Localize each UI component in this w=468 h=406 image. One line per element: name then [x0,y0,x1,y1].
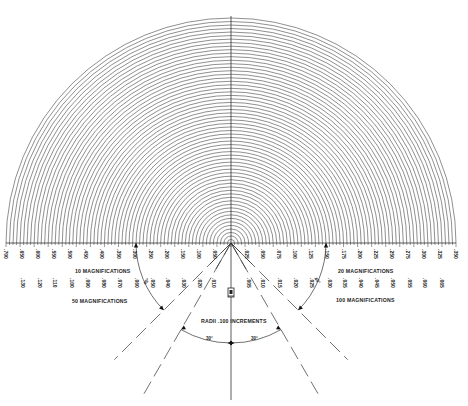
scale-label: .110 [52,278,58,287]
label-angle-right-30: 30° [251,336,258,341]
scale-label: .010 [211,278,217,288]
center-marker-icon [228,288,234,297]
scale-label: .005 [246,278,252,288]
scale-label: .350 [116,249,122,259]
scale-label: .200 [357,249,363,259]
scale-label: .070 [117,278,123,288]
scale-label: .055 [407,278,413,288]
scale-label: .030 [181,278,187,288]
label-50-magnifications: 50 MAGNIFICATIONS [72,298,127,304]
scale-label: .300 [421,249,427,259]
scale-label: .275 [405,249,411,259]
scale-label: .050 [212,249,218,259]
scale-label: .100 [196,249,202,259]
scale-label: .075 [276,249,282,259]
scale-label: .300 [132,249,138,259]
scale-label: .035 [342,278,348,288]
scale-label: .100 [69,278,75,288]
scale-label: .010 [260,278,266,288]
scale-label: .200 [164,249,170,259]
scale-label: .060 [134,278,140,288]
scale-label: .130 [20,278,26,288]
scale-label: .030 [327,278,333,288]
scale-label: .020 [293,278,299,288]
scale-label: .600 [35,249,41,259]
scale-label: .350 [453,249,459,259]
scale-label: .325 [437,249,443,259]
scale-label: .150 [180,249,186,259]
protractor-diagram [0,0,468,406]
scale-label: .040 [358,278,364,288]
scale-label: .700 [3,249,9,259]
scale-label: .500 [67,249,73,259]
scale-label: .225 [373,249,379,259]
scale-label: .120 [37,278,43,288]
scale-label: .050 [260,249,266,259]
scale-label: .065 [439,278,445,288]
scale-label: .040 [165,278,171,288]
scale-label: .080 [101,278,107,288]
label-radii-increments: RADII .100 INCREMENTS [201,318,267,324]
scale-label: .045 [374,278,380,288]
scale-label: .050 [150,278,156,288]
scale-label: .400 [99,249,105,259]
label-angle-left-30: 30° [206,336,213,341]
label-20-magnifications: 20 MAGNIFICATIONS [338,268,393,274]
scale-label: .020 [197,278,203,288]
scale-label: .150 [324,249,330,259]
scale-label: .650 [19,249,25,259]
scale-label: .090 [85,278,91,288]
scale-label: .550 [51,249,57,259]
scale-label: .450 [83,249,89,259]
scale-label: .100 [292,249,298,259]
label-100-magnifications: 100 MAGNIFICATIONS [336,297,395,303]
scale-label: .250 [389,249,395,259]
label-10-magnifications: 10 MAGNIFICATIONS [75,268,130,274]
scale-label: .050 [390,278,396,288]
scale-label: .025 [244,249,250,259]
scale-label: .125 [308,249,314,259]
scale-label: .175 [341,249,347,259]
scale-label: .250 [148,249,154,259]
scale-label: .015 [277,278,283,288]
scale-label: .060 [422,278,428,288]
